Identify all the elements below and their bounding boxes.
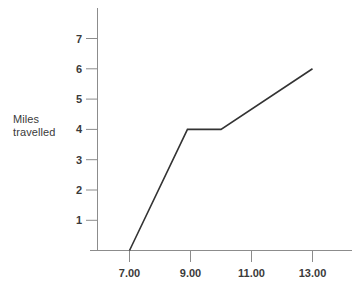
y-axis-title-line-2: travelled: [13, 126, 55, 138]
y-tick-label: 6: [76, 63, 82, 74]
x-axis-ticks: [130, 251, 313, 263]
chart-plot-area: [0, 0, 354, 296]
data-series-line: [130, 69, 313, 251]
y-tick-label: 4: [76, 124, 82, 135]
y-tick-label: 3: [76, 154, 82, 165]
x-tick-label: 9.00: [180, 268, 201, 279]
y-axis-title-line-1: Miles: [13, 113, 39, 125]
y-tick-label: 2: [76, 185, 82, 196]
x-tick-label: 13.00: [299, 268, 327, 279]
x-tick-label: 11.00: [238, 268, 265, 279]
line-chart: Milestravelled 1 2 3 4 5 6 7 7.00 9.00 1…: [0, 0, 354, 296]
y-axis-ticks: [86, 39, 98, 221]
x-tick-label: 7.00: [119, 268, 140, 279]
y-axis-title: Milestravelled: [13, 113, 55, 139]
y-tick-label: 5: [76, 94, 82, 105]
y-tick-label: 1: [76, 215, 82, 226]
y-tick-label: 7: [76, 33, 82, 44]
